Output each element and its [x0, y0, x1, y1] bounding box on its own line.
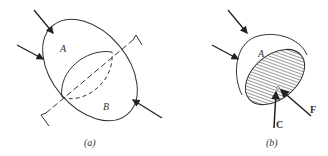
force-arrow-f [281, 90, 311, 116]
cutting-plane-end-right [133, 35, 142, 45]
label-f: F [310, 104, 316, 115]
panel-b [212, 10, 315, 128]
point-o [277, 87, 280, 90]
label-c: C [276, 119, 283, 130]
caption-a: (a) [84, 137, 96, 148]
force-arrow-2 [17, 45, 43, 59]
label-b: B [103, 101, 109, 112]
section-front [62, 52, 112, 97]
label-a: A [258, 48, 264, 59]
force-arrow-3 [133, 100, 162, 118]
section-back [62, 52, 112, 99]
panel-a [17, 1, 162, 139]
label-a: A [60, 43, 66, 54]
caption-b: (b) [266, 137, 278, 148]
force-arrow-1 [228, 10, 247, 33]
diagram-canvas [0, 0, 328, 156]
force-arrow-2 [212, 45, 238, 59]
force-arrow-1 [34, 10, 53, 33]
cutting-plane-end-left [41, 113, 49, 126]
